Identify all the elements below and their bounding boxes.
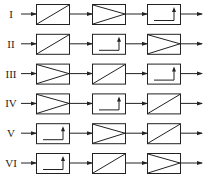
amplifier-block (37, 94, 70, 114)
row-4 (21, 94, 202, 114)
block-diagram (0, 0, 207, 178)
converter-block (148, 94, 181, 114)
step-block (148, 64, 181, 84)
amplifier-block (93, 5, 126, 25)
step-block (37, 154, 70, 174)
row-6 (21, 154, 202, 174)
step-block (148, 5, 181, 25)
amplifier-block (148, 154, 181, 174)
row-5 (21, 124, 202, 144)
row-2 (21, 34, 202, 54)
converter-block (93, 64, 126, 84)
amplifier-block (37, 64, 70, 84)
converter-block (93, 154, 126, 174)
step-block (93, 34, 126, 54)
step-block (93, 94, 126, 114)
step-block (37, 124, 70, 144)
amplifier-block (148, 34, 181, 54)
converter-block (37, 34, 70, 54)
amplifier-block (93, 124, 126, 144)
row-3 (21, 64, 202, 84)
converter-block (37, 5, 70, 25)
row-1 (21, 5, 202, 25)
converter-block (148, 124, 181, 144)
